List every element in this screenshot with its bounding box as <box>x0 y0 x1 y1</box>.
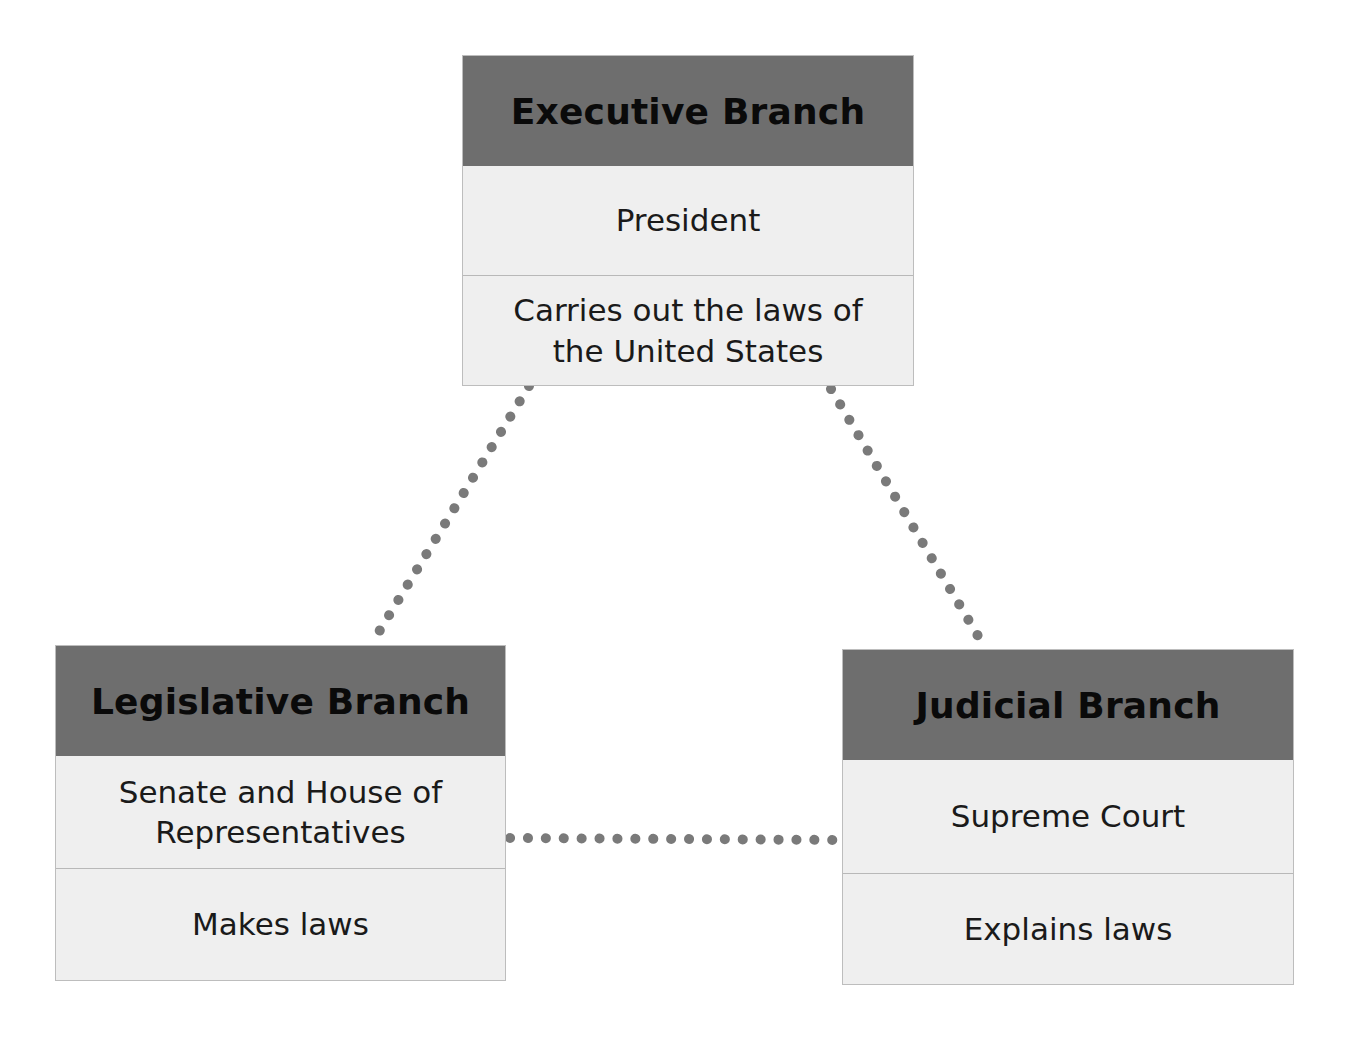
executive-branch-box: Executive Branch President Carries out t… <box>462 55 914 386</box>
connector-executive-legislative <box>377 386 529 635</box>
legislative-branch-role: Makes laws <box>56 868 505 980</box>
legislative-branch-who: Senate and House of Representatives <box>56 756 505 868</box>
executive-branch-who: President <box>463 166 913 275</box>
judicial-branch-box: Judicial Branch Supreme Court Explains l… <box>842 649 1294 985</box>
legislative-branch-box: Legislative Branch Senate and House of R… <box>55 645 506 981</box>
executive-branch-role: Carries out the laws of the United State… <box>463 275 913 385</box>
connector-legislative-judicial <box>510 838 840 840</box>
executive-branch-title: Executive Branch <box>463 56 913 166</box>
legislative-branch-title: Legislative Branch <box>56 646 505 756</box>
connector-executive-judicial <box>831 389 981 641</box>
judicial-branch-who: Supreme Court <box>843 760 1293 873</box>
judicial-branch-role: Explains laws <box>843 873 1293 984</box>
judicial-branch-title: Judicial Branch <box>843 650 1293 760</box>
